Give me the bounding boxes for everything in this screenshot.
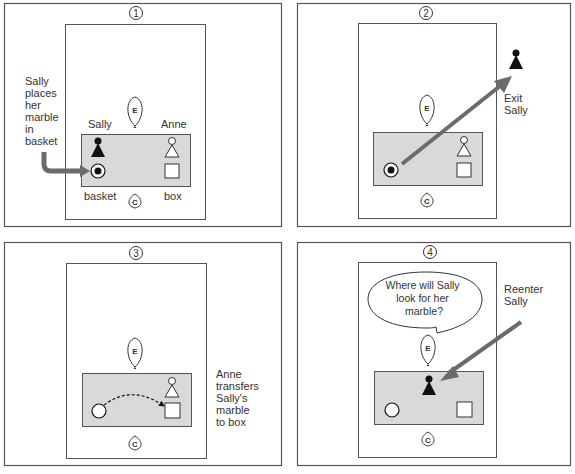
svg-text:C: C (424, 197, 430, 206)
svg-text:E: E (132, 347, 138, 356)
panel-caption: Sally places her marble in basket (25, 75, 62, 147)
sally-figure-icon (509, 50, 523, 70)
panel-2: 2 E C Exit Sally (298, 4, 571, 227)
sally-anne-diagram: 1 Sally places her marble in basket E Sa… (0, 0, 575, 474)
box-icon (165, 403, 180, 418)
panel-number: 2 (423, 8, 429, 19)
panel-4: 4 Where will Sally look for her marble? … (298, 243, 571, 466)
svg-text:C: C (132, 440, 138, 449)
panel-number: 3 (133, 248, 139, 259)
basket-label: basket (84, 190, 116, 202)
box-icon (457, 163, 471, 177)
svg-text:C: C (425, 436, 431, 445)
svg-text:E: E (132, 106, 138, 115)
panel-caption: Anne transfers Sally's marble to box (216, 368, 262, 428)
panel-caption: Exit Sally (504, 92, 528, 116)
svg-text:E: E (425, 344, 431, 353)
svg-text:C: C (132, 198, 138, 207)
basket-icon (92, 404, 106, 418)
basket-with-marble-icon (384, 163, 398, 177)
box-icon (165, 164, 179, 178)
box-icon (457, 402, 472, 417)
panel-caption: Reenter Sally (504, 283, 546, 307)
box-label: box (164, 190, 182, 202)
panel-3: 3 E C Anne transfers Sally's marble to b… (5, 243, 282, 466)
basket-with-marble-icon (91, 164, 105, 178)
anne-label: Anne (161, 118, 187, 130)
panel-number: 1 (133, 8, 139, 19)
panel-1: 1 Sally places her marble in basket E Sa… (5, 4, 282, 227)
basket-icon (385, 403, 399, 417)
svg-text:E: E (424, 104, 430, 113)
panel-number: 4 (427, 247, 433, 258)
sally-label: Sally (88, 118, 112, 130)
